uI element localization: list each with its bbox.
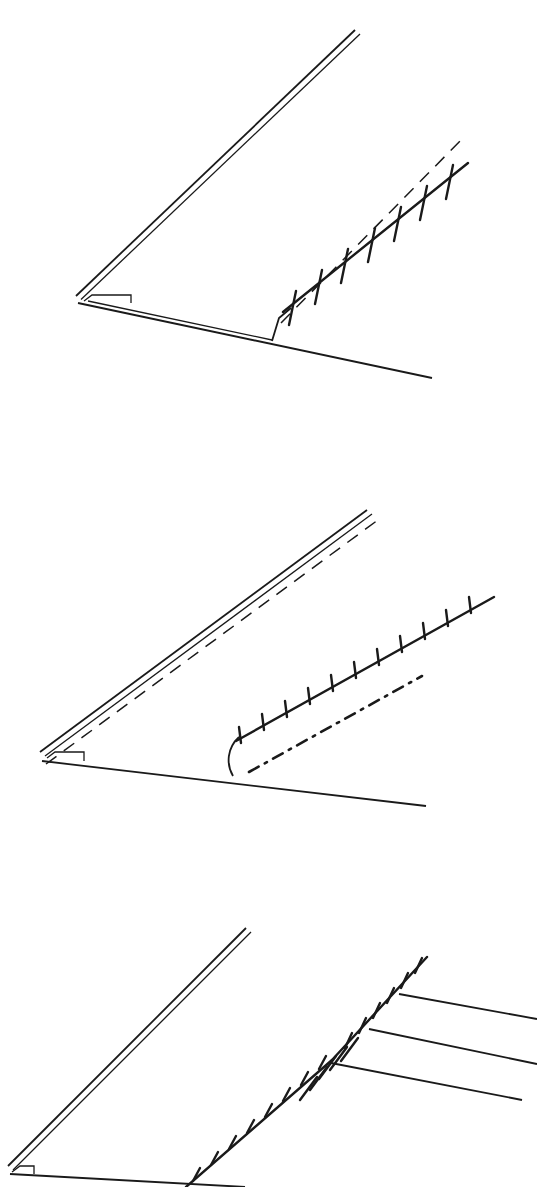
barb-tick [446, 165, 453, 199]
cross-hatch-cluster [300, 1038, 358, 1100]
branch-line-3 [330, 1063, 520, 1100]
panel-a-canvas [0, 0, 537, 420]
figure-panel-b [0, 460, 537, 860]
lower-limb-double-line-offset [84, 300, 272, 340]
dashed-trace-line [281, 139, 462, 323]
panel-a-linework [76, 30, 468, 378]
barb-tick [239, 727, 241, 743]
lower-limb-double-line [78, 303, 430, 378]
branch-line-1 [398, 995, 537, 1020]
upper-limb-double-line [76, 30, 355, 296]
barbed-boundary-lower [190, 1060, 330, 1187]
barbed-boundary-line [283, 163, 468, 312]
lower-limb-line [14, 1172, 240, 1187]
upper-limb-double-line-offset [80, 34, 360, 299]
upper-limb-double-line-offset [45, 514, 372, 756]
barb-tick [420, 186, 427, 220]
panel-c-linework [8, 928, 537, 1187]
barb-tick [394, 207, 401, 241]
barb-ticks-lower [193, 1056, 326, 1181]
dashed-trace-line [280, 139, 462, 322]
barb-tick [368, 228, 375, 262]
figure-sheet [0, 0, 537, 1187]
barbed-boundary-line [235, 597, 492, 740]
branch-line-2 [369, 1029, 537, 1064]
panel-c-canvas [0, 900, 537, 1187]
upper-limb-double-line [8, 928, 246, 1166]
figure-panel-a [0, 0, 537, 420]
branch-line-1 [399, 994, 537, 1019]
figure-panel-c [0, 900, 537, 1187]
branch-line-2 [368, 1030, 537, 1065]
upper-limb-double-line [40, 510, 367, 752]
panel-b-canvas [0, 460, 537, 860]
lower-limb-line [42, 760, 424, 805]
barbed-boundary-line [283, 163, 466, 310]
upper-limb-double-line-offset [13, 932, 251, 1170]
barb-ticks [289, 165, 453, 325]
